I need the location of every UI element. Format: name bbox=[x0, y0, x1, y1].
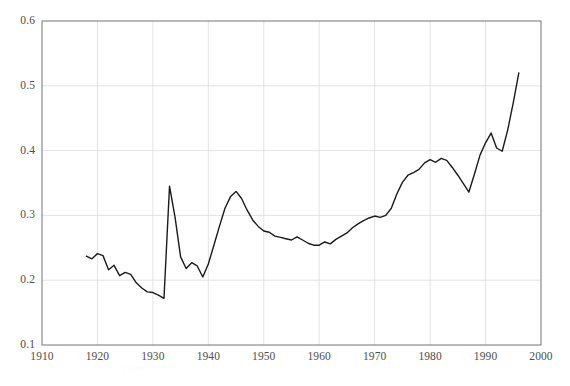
y-tick-label: 0.2 bbox=[2, 273, 35, 285]
x-tick-label: 1950 bbox=[239, 350, 289, 362]
x-tick-label: 1980 bbox=[405, 350, 455, 362]
data-series-group bbox=[86, 73, 518, 299]
x-tick-label: 1920 bbox=[72, 350, 122, 362]
ghost-caption-text: Figure bbox=[122, 363, 146, 373]
y-tick-label: 0.5 bbox=[2, 79, 35, 91]
axis-frame bbox=[42, 21, 541, 345]
grid-lines bbox=[42, 21, 541, 345]
x-tick-label: 1960 bbox=[294, 350, 344, 362]
x-tick-label: 2000 bbox=[516, 350, 566, 362]
y-tick-label: 0.6 bbox=[2, 14, 35, 26]
x-tick-label: 1990 bbox=[461, 350, 511, 362]
x-tick-label: 1970 bbox=[350, 350, 400, 362]
data-line-1 bbox=[86, 73, 518, 299]
plot-border bbox=[42, 21, 541, 345]
y-tick-label: 0.1 bbox=[2, 338, 35, 350]
x-tick-label: 1930 bbox=[128, 350, 178, 362]
x-tick-label: 1940 bbox=[183, 350, 233, 362]
chart-figure: 0.10.20.30.40.50.6 191019201930194019501… bbox=[0, 0, 570, 386]
y-tick-label: 0.3 bbox=[2, 208, 35, 220]
line-chart-plot bbox=[0, 0, 570, 386]
x-tick-label: 1910 bbox=[17, 350, 67, 362]
y-tick-label: 0.4 bbox=[2, 144, 35, 156]
